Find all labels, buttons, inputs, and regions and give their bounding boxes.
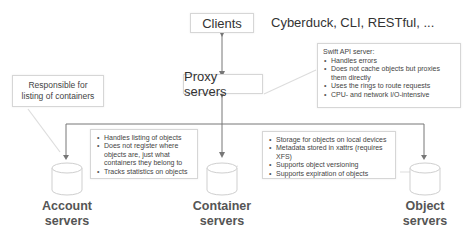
proxy-callout-heading: Swift API server: [323,48,455,57]
list-item: Does not cache objects but proxies them … [323,65,455,82]
container-servers-node[interactable]: Container servers [182,199,262,229]
proxy-callout: Swift API server: Handles errors Does no… [317,43,461,108]
proxy-servers-node[interactable]: Proxy servers [183,74,263,94]
list-item: Supports expiration of objects [268,170,390,178]
proxy-callout-connector [264,70,316,94]
list-item: Does not register where objects are, jus… [96,142,192,167]
object-servers-label-line1: Object [390,199,460,214]
list-item: Tracks statistics on objects [96,168,192,176]
clients-label: Clients [202,16,242,31]
account-servers-node[interactable]: Account servers [32,199,102,229]
list-item: CPU- and network I/O-intensive [323,91,455,100]
proxy-servers-label: Proxy servers [184,69,262,99]
account-arrowhead [63,155,69,160]
proxy-callout-list: Handles errors Does not cache objects bu… [323,57,455,100]
account-note-connector [28,109,60,152]
object-callout: Storage for objects on local devices Met… [262,131,396,179]
list-item: Handles errors [323,57,455,66]
container-servers-label-line1: Container [182,199,262,214]
account-servers-label-line1: Account [32,199,102,214]
object-servers-node[interactable]: Object servers [390,199,460,229]
list-item: Supports object versioning [268,161,390,169]
object-arrowhead [421,155,427,160]
list-item: Uses the rings to route requests [323,82,455,91]
object-callout-list: Storage for objects on local devices Met… [268,136,390,178]
client-tools-label: Cyberduck, CLI, RESTful, ... [271,15,434,30]
account-servers-label-line2: servers [32,214,102,229]
container-cylinder-icon [207,163,237,195]
clients-node[interactable]: Clients [190,13,254,33]
object-servers-label-line2: servers [390,214,460,229]
container-servers-label-line2: servers [182,214,262,229]
list-item: Handles listing of objects [96,134,192,142]
list-item: Storage for objects on local devices [268,136,390,144]
account-cylinder-icon [52,163,82,195]
container-callout-list: Handles listing of objects Does not regi… [96,134,192,176]
account-note-text: Responsible for listing of containers [19,80,97,102]
account-note: Responsible for listing of containers [12,75,104,107]
object-cylinder-icon [410,163,440,195]
list-item: Metadata stored in xattrs (requires XFS) [268,144,390,161]
container-callout: Handles listing of objects Does not regi… [90,129,198,179]
